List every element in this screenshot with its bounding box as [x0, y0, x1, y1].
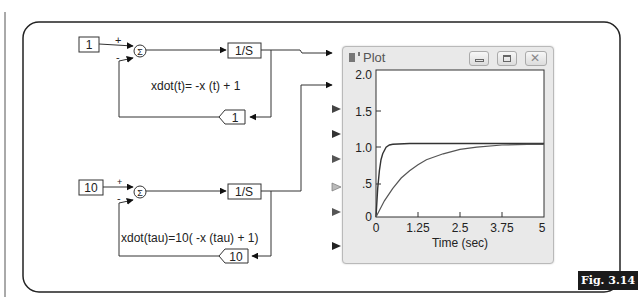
scope-input-ports	[332, 105, 341, 250]
sigma-icon: Σ	[137, 47, 143, 57]
figure-label: Fig. 3.14	[578, 271, 638, 290]
plot-title: Plot	[363, 50, 385, 65]
x-tick: 3.75	[490, 221, 514, 235]
sum-plus-sign: +	[115, 34, 121, 46]
gain-value: 10	[229, 250, 243, 264]
maximize-button[interactable]	[497, 51, 517, 66]
x-tick: 5	[539, 221, 546, 235]
close-icon: ✕	[530, 51, 540, 66]
close-button[interactable]: ✕	[525, 51, 547, 66]
equation-top: xdot(t)= -x (t) + 1	[151, 79, 241, 93]
plot-title-bar[interactable]: Plot ✕	[343, 47, 553, 69]
plot-window[interactable]: Plot ✕ 2.0 1.5 1.0 .5 0 0 1.25 2.5 3.75	[342, 46, 554, 264]
y-tick: 1.5	[355, 105, 372, 119]
integrator-label: 1/S	[235, 185, 253, 199]
plot-app-icon	[349, 53, 355, 62]
bottom-system: 10 + - Σ 1/S 10 xdot(tau)=10( -x (tau) +…	[79, 85, 332, 264]
x-tick: 0	[373, 221, 380, 235]
top-system: 1 + - Σ 1/S 1 xdot(t)= -x (t) + 1	[79, 34, 332, 125]
x-tick: 2.5	[452, 221, 469, 235]
minimize-button[interactable]	[469, 51, 489, 66]
y-tick: 0	[365, 210, 372, 224]
y-tick: 1.0	[355, 141, 372, 155]
equation-bottom: xdot(tau)=10( -x (tau) + 1)	[121, 231, 258, 245]
constant-value: 1	[86, 38, 93, 52]
plot-chart: 2.0 1.5 1.0 .5 0 0 1.25 2.5 3.75 5 Time …	[343, 69, 553, 263]
y-tick: .5	[362, 177, 372, 191]
gain-value: 1	[232, 111, 239, 125]
y-tick: 2.0	[355, 69, 372, 82]
sum-plus-sign: +	[117, 177, 122, 187]
x-tick: 1.25	[406, 221, 430, 235]
x-axis-label: Time (sec)	[432, 236, 488, 250]
integrator-label: 1/S	[235, 44, 253, 58]
plot-app-icon-mark	[358, 52, 360, 56]
sigma-icon: Σ	[137, 188, 143, 198]
constant-value: 10	[84, 181, 98, 195]
